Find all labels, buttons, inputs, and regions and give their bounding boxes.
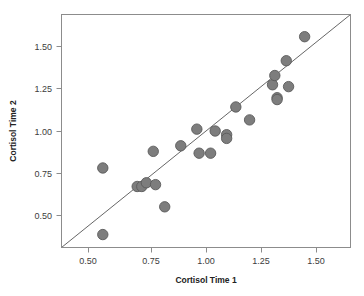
y-tick-label: 0.75 xyxy=(34,169,52,179)
x-tick-label: 0.75 xyxy=(142,256,160,266)
y-tick-label: 1.25 xyxy=(34,84,52,94)
x-tick-label: 0.50 xyxy=(79,256,97,266)
data-point xyxy=(98,229,108,239)
data-point xyxy=(231,102,241,112)
data-point xyxy=(210,126,220,136)
x-axis-title: Cortisol Time 1 xyxy=(175,275,237,285)
scatter-plot-figure: 0.50 0.75 1.00 1.25 1.50 1.50 1.25 1.00 … xyxy=(0,0,364,296)
data-point xyxy=(205,148,215,158)
y-tick-label: 1.00 xyxy=(34,127,52,137)
data-point xyxy=(194,148,204,158)
data-point xyxy=(270,70,280,80)
data-point xyxy=(221,133,231,143)
data-point xyxy=(192,124,202,134)
data-point xyxy=(176,141,186,151)
data-point xyxy=(148,146,158,156)
data-point xyxy=(141,178,151,188)
y-tick-label: 0.50 xyxy=(34,211,52,221)
y-axis-title: Cortisol Time 2 xyxy=(8,100,18,162)
plot-canvas: 0.50 0.75 1.00 1.25 1.50 1.50 1.25 1.00 … xyxy=(0,0,364,296)
x-tick-label: 1.50 xyxy=(307,256,325,266)
y-tick-label: 1.50 xyxy=(34,42,52,52)
data-point xyxy=(244,115,254,125)
data-point xyxy=(272,94,282,104)
data-point xyxy=(150,179,160,189)
data-point xyxy=(299,31,309,41)
data-point xyxy=(281,56,291,66)
x-tick-label: 1.00 xyxy=(197,256,215,266)
data-point xyxy=(283,81,293,91)
data-point xyxy=(267,80,277,90)
x-tick-label: 1.25 xyxy=(252,256,270,266)
data-point xyxy=(98,163,108,173)
data-point xyxy=(160,202,170,212)
